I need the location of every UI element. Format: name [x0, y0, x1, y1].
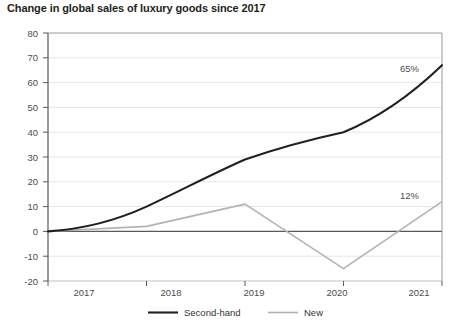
x-tick-label: 2020 — [326, 287, 347, 298]
y-tick-label: 60 — [27, 77, 38, 88]
legend-label-new: New — [304, 307, 323, 318]
y-tick-label: 0 — [33, 226, 38, 237]
chart-container: Change in global sales of luxury goods s… — [0, 0, 461, 329]
x-tick-label: 2018 — [160, 287, 181, 298]
chart-legend: Second-hand New — [148, 307, 323, 318]
y-tick-label: 50 — [27, 102, 38, 113]
x-tick-label: 2021 — [408, 287, 429, 298]
x-tick-marks — [48, 281, 442, 286]
line-chart-plot: 80 70 60 50 40 30 20 10 0 -10 -20 2017 2… — [0, 0, 461, 329]
gridlines — [48, 33, 442, 281]
x-tick-label: 2017 — [73, 287, 94, 298]
legend-label-second-hand: Second-hand — [184, 307, 241, 318]
x-tick-label: 2019 — [243, 287, 264, 298]
y-tick-label: 80 — [27, 28, 38, 39]
y-tick-label: 70 — [27, 52, 38, 63]
annotation-new-12: 12% — [400, 190, 420, 201]
y-tick-marks — [43, 33, 48, 281]
y-tick-label: -20 — [24, 276, 38, 287]
y-tick-label: -10 — [24, 251, 38, 262]
annotation-second-hand-65: 65% — [400, 63, 420, 74]
y-tick-label: 20 — [27, 176, 38, 187]
y-tick-label: 30 — [27, 152, 38, 163]
y-tick-label: 40 — [27, 127, 38, 138]
series-line-new — [48, 202, 442, 269]
y-tick-label: 10 — [27, 201, 38, 212]
